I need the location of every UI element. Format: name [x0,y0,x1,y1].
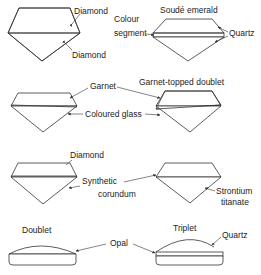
label-segment: segment [114,28,147,38]
opal-triplet-panel: Triplet Opal Quartz [76,223,248,265]
diamond-doublet-panel: Diamond Diamond [8,6,108,61]
label-coloured-glass: Coloured glass [85,109,142,119]
opal-doublet-panel: Doublet [9,225,76,265]
diamond-crown [8,8,80,33]
label-strontium: Strontium [216,186,252,196]
label-opal: Opal [110,238,128,248]
label-quartz-triplet: Quartz [222,230,248,240]
label-synthetic: Synthetic [82,176,118,186]
garnet-topped-doublet-panel: Garnet-topped doublet [139,77,225,132]
label-titanate: titanate [221,197,249,207]
title-garnet-topped-doublet: Garnet-topped doublet [139,77,225,87]
label-quartz: Quartz [229,28,255,38]
label-diamond-bottom: Diamond [72,50,106,60]
title-doublet: Doublet [22,225,52,235]
strontium-titanate-panel: Strontium titanate [156,163,252,207]
label-diamond-top: Diamond [74,6,108,16]
diamond-corundum-panel: Diamond Synthetic corundum [11,150,156,204]
gemstone-diagram: Diamond Diamond Soudé emerald Colour seg… [0,0,261,275]
title-soude-emerald: Soudé emerald [160,5,218,15]
soude-emerald-panel: Soudé emerald Colour segment Quartz [114,5,255,61]
label-colour: Colour [114,14,139,24]
label-corundum: corundum [98,189,136,199]
label-garnet: Garnet [90,81,117,91]
garnet-glass-panel: Garnet Coloured glass [11,81,160,132]
label-diamond: Diamond [70,150,104,160]
title-triplet: Triplet [173,223,197,233]
